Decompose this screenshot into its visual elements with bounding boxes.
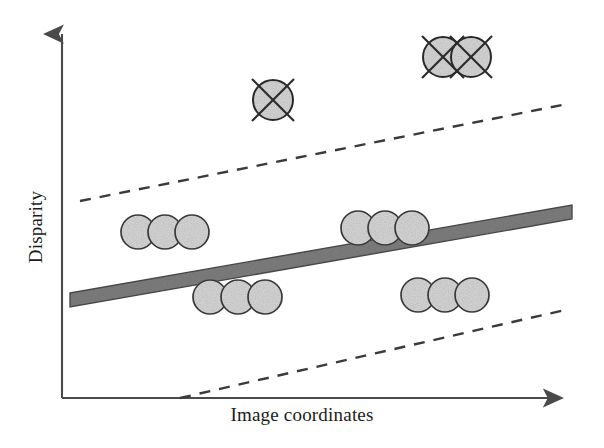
y-axis-label: Disparity xyxy=(25,147,47,307)
inlier-cluster-right-lower xyxy=(401,278,489,312)
inlier-cluster-right-upper xyxy=(341,211,429,245)
lower-dashed-bound xyxy=(180,310,565,398)
x-axis-label: Image coordinates xyxy=(0,404,604,426)
inlier-circle xyxy=(395,211,429,245)
disparity-diagram: Disparity Image coordinates xyxy=(0,0,604,448)
outlier-crossed-circle-single xyxy=(252,79,294,121)
outlier-crossed-circle-pair xyxy=(422,36,492,78)
inlier-cluster-left-upper xyxy=(121,215,209,249)
plot-canvas xyxy=(0,0,604,448)
inlier-circle xyxy=(455,278,489,312)
inlier-circle xyxy=(248,280,282,314)
inlier-circle xyxy=(175,215,209,249)
upper-dashed-bound xyxy=(80,105,562,201)
inlier-cluster-left-lower xyxy=(193,280,282,314)
